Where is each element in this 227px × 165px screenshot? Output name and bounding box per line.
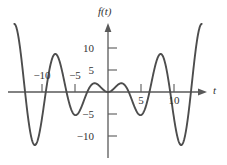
x-tick-label-minus-5: −5 bbox=[62, 70, 88, 81]
x-tick-label-minus-10: −10 bbox=[29, 70, 55, 81]
y-tick-label-minus-5: −5 bbox=[60, 109, 94, 120]
y-tick-label-10: 10 bbox=[60, 43, 94, 54]
x-tick-label-10: 10 bbox=[161, 95, 187, 106]
x-tick-label-5: 5 bbox=[128, 95, 154, 106]
plot-canvas bbox=[0, 0, 227, 165]
function-graph-figure: 10 5 −5 −10 −10 −5 5 10 f(t) t bbox=[0, 0, 227, 165]
y-tick-label-minus-10: −10 bbox=[60, 131, 94, 142]
x-axis-label: t bbox=[213, 85, 216, 96]
y-axis-label: f(t) bbox=[98, 6, 111, 17]
